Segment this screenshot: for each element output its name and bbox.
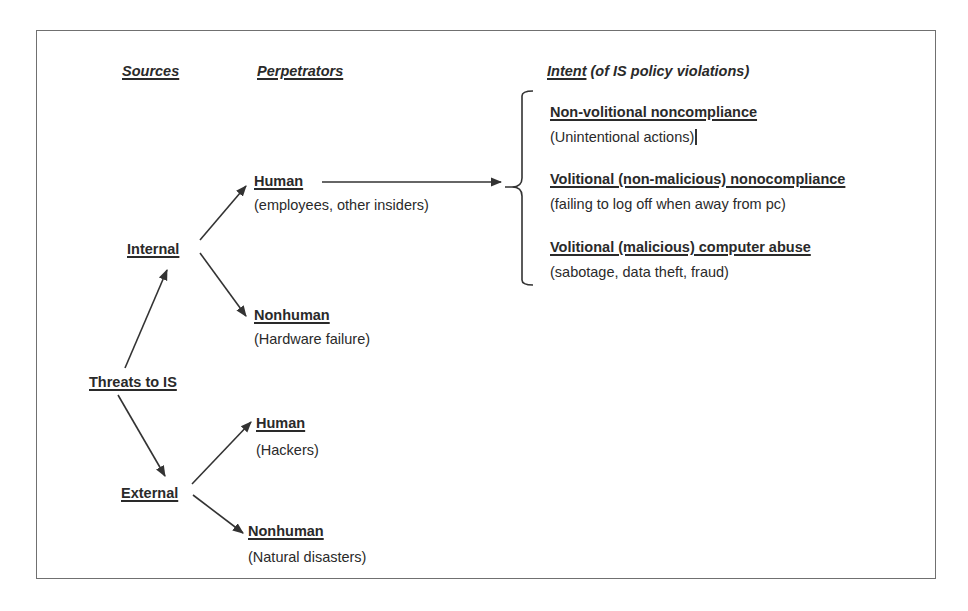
node-internal-human-desc: (employees, other insiders) xyxy=(254,196,429,214)
intent-non-volitional-desc: (Unintentional actions) xyxy=(550,128,697,146)
node-external-human-desc: (Hackers) xyxy=(256,441,319,459)
intent-volitional-malicious-desc: (sabotage, data theft, fraud) xyxy=(550,263,729,281)
intent-non-volitional: Non-volitional noncompliance xyxy=(550,103,757,121)
node-external: External xyxy=(121,484,178,502)
node-external-nonhuman-desc: (Natural disasters) xyxy=(248,548,366,566)
header-intent-label: Intent xyxy=(547,63,586,79)
node-threats-to-is: Threats to IS xyxy=(89,373,177,391)
node-internal-human: Human xyxy=(254,172,303,190)
node-internal: Internal xyxy=(127,240,179,258)
header-intent-qualifier: (of IS policy violations) xyxy=(586,63,749,79)
intent-volitional-malicious: Volitional (malicious) computer abuse xyxy=(550,238,811,256)
intent-non-volitional-desc-text: (Unintentional actions) xyxy=(550,129,694,145)
intent-volitional-non-malicious: Volitional (non-malicious) nonocomplianc… xyxy=(550,170,845,188)
header-sources: Sources xyxy=(122,62,179,80)
node-internal-nonhuman-desc: (Hardware failure) xyxy=(254,330,370,348)
header-intent: Intent (of IS policy violations) xyxy=(547,62,749,80)
node-external-nonhuman: Nonhuman xyxy=(248,522,324,540)
text-cursor xyxy=(695,129,697,145)
connector-arrows xyxy=(0,0,968,611)
node-external-human: Human xyxy=(256,414,305,432)
intent-volitional-non-malicious-desc: (failing to log off when away from pc) xyxy=(550,195,786,213)
node-internal-nonhuman: Nonhuman xyxy=(254,306,330,324)
header-perpetrators: Perpetrators xyxy=(257,62,343,80)
